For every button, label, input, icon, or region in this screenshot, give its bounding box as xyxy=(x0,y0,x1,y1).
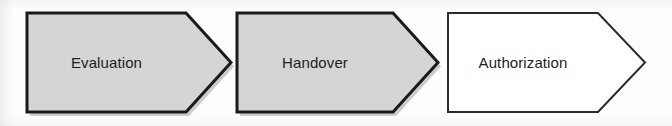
process-step-authorization[interactable]: Authorization xyxy=(448,13,645,112)
process-step-evaluation[interactable]: Evaluation xyxy=(27,13,231,112)
process-step-label-authorization: Authorization xyxy=(448,13,598,112)
process-step-label-evaluation: Evaluation xyxy=(27,13,186,112)
process-step-label-handover: Handover xyxy=(237,13,393,112)
diagram-canvas: Evaluation Handover Authorization xyxy=(0,0,672,126)
process-step-handover[interactable]: Handover xyxy=(237,13,438,112)
